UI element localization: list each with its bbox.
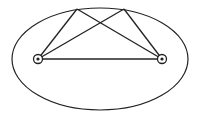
segment-left-focus-to-top-left: [38, 9, 77, 59]
focus-left-dot-icon: [36, 57, 39, 60]
focus-right-dot-icon: [160, 57, 163, 60]
segments: [38, 9, 162, 59]
segment-top-right-to-right-focus: [124, 9, 162, 59]
focus-right-marker: [158, 55, 167, 64]
ellipse-diagram: [0, 0, 197, 117]
focus-left-marker: [34, 55, 43, 64]
